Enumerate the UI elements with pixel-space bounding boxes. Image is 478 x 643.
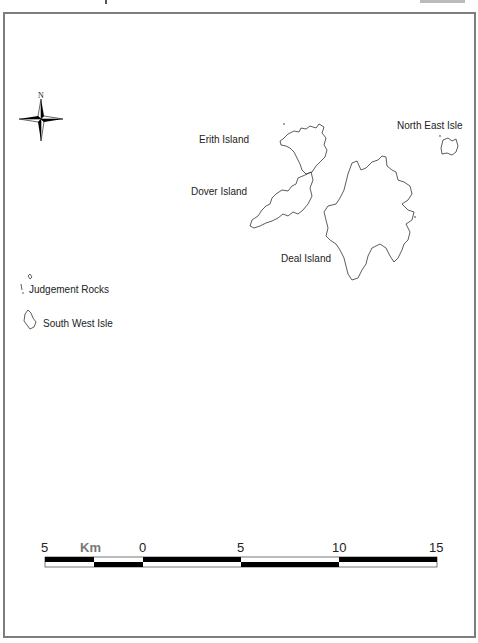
scale-tick-0: 0 (139, 541, 146, 555)
label-north-east-isle: North East Isle (397, 120, 463, 132)
north-east-isle-outline (441, 138, 458, 155)
scale-tick-10: 10 (332, 541, 346, 555)
label-erith-island: Erith Island (199, 134, 249, 146)
erith-island-outline (280, 124, 327, 174)
deal-island-outline (324, 156, 414, 280)
label-south-west-isle: South West Isle (43, 318, 113, 330)
scale-tick-5: 5 (237, 541, 244, 555)
scale-tick-15: 15 (429, 541, 443, 555)
scale-bar (45, 557, 437, 567)
label-deal-island: Deal Island (281, 253, 331, 265)
south-west-isle-outline (24, 310, 36, 329)
deal-island-islet (414, 216, 416, 218)
north-east-isle-islet (439, 135, 441, 137)
label-dover-island: Dover Island (191, 186, 247, 198)
scale-unit-label: Km (80, 541, 101, 555)
label-judgement-rocks: Judgement Rocks (29, 284, 109, 296)
scale-tick-left-5: 5 (41, 541, 48, 555)
erith-islet (283, 123, 285, 125)
north-arrow-label: N (38, 90, 44, 102)
dover-island-outline (250, 172, 313, 228)
north-arrow-icon (19, 99, 63, 141)
